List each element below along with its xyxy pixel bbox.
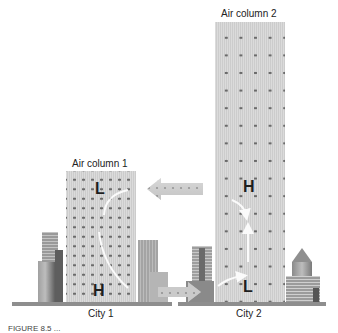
- ground-city-1: [12, 302, 172, 306]
- ground-city-2: [178, 302, 326, 306]
- aloft-flow-arrow: [145, 176, 205, 202]
- figure-caption: FIGURE 8.5 ...: [8, 324, 60, 333]
- surface-flow-arrow: [158, 281, 202, 303]
- city-1-label: City 1: [88, 308, 114, 319]
- city-2-label: City 2: [236, 308, 262, 319]
